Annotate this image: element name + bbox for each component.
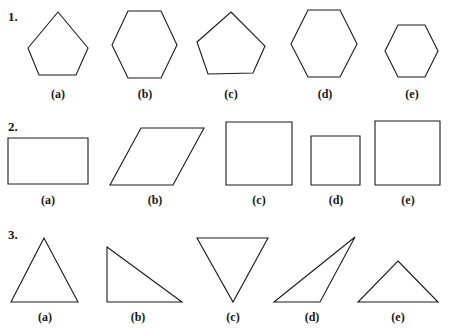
- shape-3-e-triangle-wide: [358, 261, 438, 302]
- shape-2-e-square-large: [375, 121, 440, 185]
- shape-label-3-a: (a): [25, 311, 65, 323]
- shape-label-1-a: (a): [38, 88, 78, 100]
- shape-label-3-d: (d): [292, 311, 332, 323]
- shape-1-e-hexagon-small: [385, 25, 438, 77]
- shape-3-d-triangle-obtuse: [274, 237, 355, 302]
- shape-label-1-b: (b): [125, 88, 165, 100]
- shape-1-b-hexagon: [112, 11, 177, 78]
- shape-label-3-c: (c): [213, 311, 253, 323]
- shape-label-2-c: (c): [239, 194, 279, 206]
- row-number-2: 2.: [8, 120, 18, 133]
- shape-label-2-a: (a): [28, 194, 68, 206]
- shape-label-3-b: (b): [118, 311, 158, 323]
- shape-1-d-hexagon: [291, 10, 357, 77]
- shape-label-2-e: (e): [388, 194, 428, 206]
- shape-1-c-pentagon-irregular: [197, 12, 265, 74]
- shape-label-3-e: (e): [378, 311, 418, 323]
- row-number-3: 3.: [8, 228, 18, 241]
- shape-3-c-triangle-inverted: [197, 238, 268, 302]
- shape-2-d-square-small: [311, 136, 360, 185]
- shape-1-a-pentagon: [28, 12, 88, 75]
- shape-label-2-d: (d): [316, 194, 356, 206]
- shape-label-2-b: (b): [135, 194, 175, 206]
- shape-label-1-e: (e): [392, 88, 432, 100]
- shape-2-b-parallelogram: [110, 128, 204, 185]
- shape-label-1-c: (c): [211, 88, 251, 100]
- shape-3-a-triangle-isosceles: [11, 238, 78, 302]
- shape-label-1-d: (d): [305, 88, 345, 100]
- shape-2-c-square: [226, 122, 292, 185]
- row-number-1: 1.: [8, 10, 18, 23]
- shapes-canvas: [0, 0, 449, 330]
- shape-2-a-rectangle: [8, 138, 88, 184]
- shape-3-b-triangle-right: [107, 247, 182, 302]
- worksheet-page: 1.2.3. (a)(b)(c)(d)(e)(a)(b)(c)(d)(e)(a)…: [0, 0, 449, 330]
